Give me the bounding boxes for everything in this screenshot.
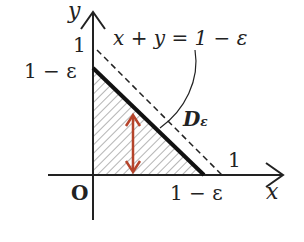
- y-tick-1-minus-eps: 1 − ε: [24, 59, 77, 83]
- y-tick-1: 1: [73, 33, 86, 57]
- x-axis-label: x: [266, 179, 279, 204]
- region-label: Dε: [182, 107, 208, 131]
- x-tick-1: 1: [228, 148, 241, 172]
- origin-label: O: [71, 181, 88, 205]
- diagram-svg: y x O 1 1 − ε 1 1 − ε x + y = 1 − ε Dε: [0, 0, 304, 242]
- y-axis-label: y: [67, 0, 81, 23]
- diagram: y x O 1 1 − ε 1 1 − ε x + y = 1 − ε Dε: [0, 0, 304, 242]
- x-tick-1-minus-eps: 1 − ε: [170, 181, 223, 205]
- line-equation-label: x + y = 1 − ε: [113, 26, 247, 50]
